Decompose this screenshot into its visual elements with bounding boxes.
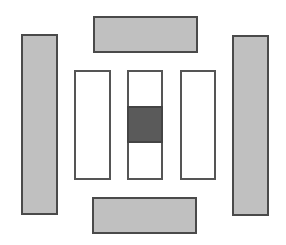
- inner-right-column: [180, 70, 216, 180]
- diagram-canvas: [0, 0, 286, 245]
- outer-right-bar: [232, 35, 269, 216]
- outer-left-bar: [21, 34, 58, 215]
- outer-top-bar: [93, 16, 198, 53]
- center-highlight-block: [127, 106, 163, 143]
- outer-bottom-bar: [92, 197, 197, 234]
- inner-left-column: [74, 70, 111, 180]
